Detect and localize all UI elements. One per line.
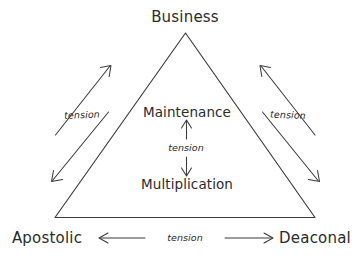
tension-label-center-axis: tension [168,143,204,153]
center-up-arrow [182,120,192,139]
corner-label-business: Business [151,10,219,25]
bottom-left-arrow [99,233,145,243]
bottom-right-arrow [225,233,273,243]
left-up-arrow [56,66,112,136]
diagram-vector-layer: .stroke { fill: none; stroke: #3a3a3a; s… [0,0,360,261]
tension-label-bottom-edge: tension [167,233,203,243]
node-label-maintenance: Maintenance [143,106,231,120]
right-up-arrow [260,66,315,136]
node-label-multiplication: Multiplication [141,178,233,192]
tension-label-right-edge: tension [270,110,306,121]
left-down-arrow [52,112,109,182]
corner-label-apostolic: Apostolic [12,231,82,246]
center-down-arrow [182,157,192,176]
corner-label-deaconal: Deaconal [279,231,351,246]
diagram-canvas: .stroke { fill: none; stroke: #3a3a3a; s… [0,0,360,261]
right-down-arrow [263,112,320,182]
tension-label-left-edge: tension [64,110,100,121]
